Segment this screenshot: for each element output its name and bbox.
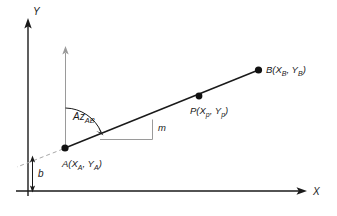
figure-canvas: Y X A(XA, YA) P(Xp, Yp) B(XB, YB) AzAB m… <box>0 0 337 216</box>
line-geometry-diagram: Y X A(XA, YA) P(Xp, Yp) B(XB, YB) AzAB m… <box>0 0 337 216</box>
point-label-p-mid: , Y <box>210 105 222 116</box>
point-marker-p[interactable] <box>196 93 203 100</box>
point-label-a-main: A(X <box>61 158 79 169</box>
y-axis-label: Y <box>33 6 41 17</box>
point-label-b-mid: , Y <box>287 64 299 75</box>
point-label-a: A(XA, YA) <box>61 158 102 171</box>
axis-group <box>16 18 307 196</box>
azimuth-label-sub: AB <box>84 116 95 125</box>
slope-triangle-group <box>100 120 153 140</box>
point-marker-b[interactable] <box>255 66 262 73</box>
line-extension-dashed <box>17 149 63 167</box>
slope-label: m <box>158 122 166 133</box>
intercept-label: b <box>38 168 44 179</box>
point-label-b: B(XB, YB) <box>266 64 306 77</box>
azimuth-label-main: Az <box>72 111 85 122</box>
line-ab <box>65 70 259 148</box>
point-label-p-main: P(X <box>190 105 207 116</box>
point-marker-a[interactable] <box>61 144 68 151</box>
intercept-arrow-group <box>30 156 35 193</box>
point-label-b-tail: ) <box>302 64 306 75</box>
x-axis-label: X <box>312 186 320 197</box>
point-label-b-main: B(X <box>266 64 283 75</box>
point-label-p-tail: ) <box>224 105 228 116</box>
north-reference-group <box>62 46 68 147</box>
point-label-p: P(Xp, Yp) <box>190 105 228 119</box>
azimuth-label: AzAB <box>72 111 95 125</box>
point-label-a-mid: , Y <box>83 158 95 169</box>
point-label-a-tail: ) <box>98 158 102 169</box>
